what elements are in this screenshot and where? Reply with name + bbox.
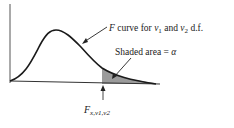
arrowhead-icon bbox=[82, 38, 88, 44]
curve-label-text: curve for bbox=[115, 23, 154, 33]
shaded-tail-area bbox=[102, 68, 155, 84]
arrowhead-up-icon bbox=[101, 85, 106, 91]
shade-label-text: Shaded area = bbox=[115, 47, 171, 57]
curve-pointer-arrow bbox=[84, 27, 107, 42]
critical-subscript: x,ν1,ν2 bbox=[90, 109, 110, 117]
f-curve bbox=[10, 30, 156, 84]
curve-label: F curve for ν1 and ν2 d.f. bbox=[109, 23, 203, 35]
shade-pointer-arrow bbox=[114, 58, 131, 77]
critical-value-label: Fx,ν1,ν2 bbox=[84, 104, 110, 117]
f-distribution-diagram: F curve for ν1 and ν2 d.f. Shaded area =… bbox=[0, 0, 234, 128]
curve-label-suffix: d.f. bbox=[188, 23, 203, 33]
diagram-canvas bbox=[0, 0, 234, 128]
shaded-area-label: Shaded area = α bbox=[115, 47, 176, 57]
alpha-symbol: α bbox=[171, 47, 176, 57]
curve-label-and: and bbox=[162, 23, 180, 33]
